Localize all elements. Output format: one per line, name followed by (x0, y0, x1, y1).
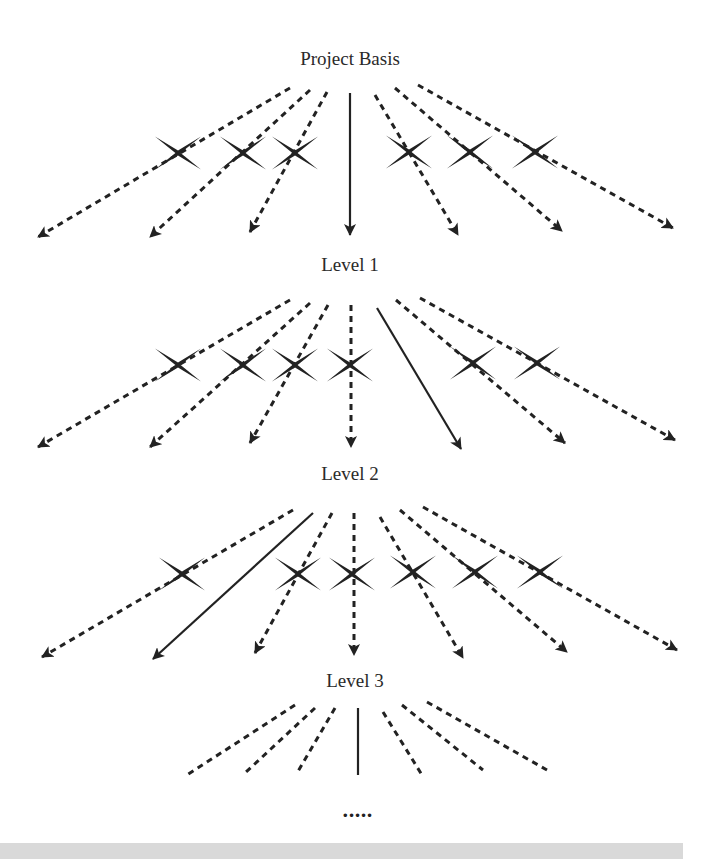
bottom-gray-bar (0, 843, 683, 859)
alternative-path-arrow (418, 85, 673, 228)
alternative-path-arrow (250, 305, 328, 443)
alternative-path-arrow (42, 510, 293, 657)
alternative-path-arrow (250, 92, 327, 232)
cross-icon (329, 557, 375, 590)
cross-icon (155, 136, 201, 169)
alternative-path-line (245, 708, 315, 773)
trailing-lines (187, 702, 547, 775)
decision-tree-diagram: Project Basis Level 1 Level 2 Level 3 ••… (0, 0, 719, 859)
cross-icon (452, 555, 498, 588)
rejected-crosses (155, 135, 563, 590)
alternative-path-line (383, 712, 422, 775)
alternative-path-line (427, 702, 547, 770)
continuation-dots: ••••• (342, 809, 372, 823)
cross-icon (220, 136, 266, 169)
cross-icon (517, 555, 563, 588)
cross-icon (390, 555, 436, 588)
cross-icon (159, 557, 205, 590)
project-basis-label: Project Basis (300, 48, 400, 69)
selected-path-arrow (153, 513, 313, 659)
cross-icon (272, 136, 318, 169)
cross-icon (275, 557, 321, 590)
cross-icon (447, 135, 493, 168)
cross-icon (155, 348, 201, 381)
cross-icon (220, 348, 266, 381)
level-1-label: Level 1 (321, 254, 379, 275)
alternative-path-arrow (380, 517, 463, 658)
cross-icon (386, 135, 432, 168)
cross-icon (512, 135, 558, 168)
alternative-path-arrow (255, 513, 332, 653)
alternative-path-arrow (38, 300, 290, 447)
cross-icon (514, 346, 560, 379)
cross-icon (450, 346, 496, 379)
level-2-label: Level 2 (321, 463, 379, 484)
level-3-label: Level 3 (326, 670, 384, 691)
alternative-path-arrow (375, 95, 458, 235)
alternative-path-arrow (396, 300, 565, 443)
alternative-path-arrow (420, 298, 675, 440)
cross-icon (272, 348, 318, 381)
selected-path-arrow (377, 308, 461, 449)
